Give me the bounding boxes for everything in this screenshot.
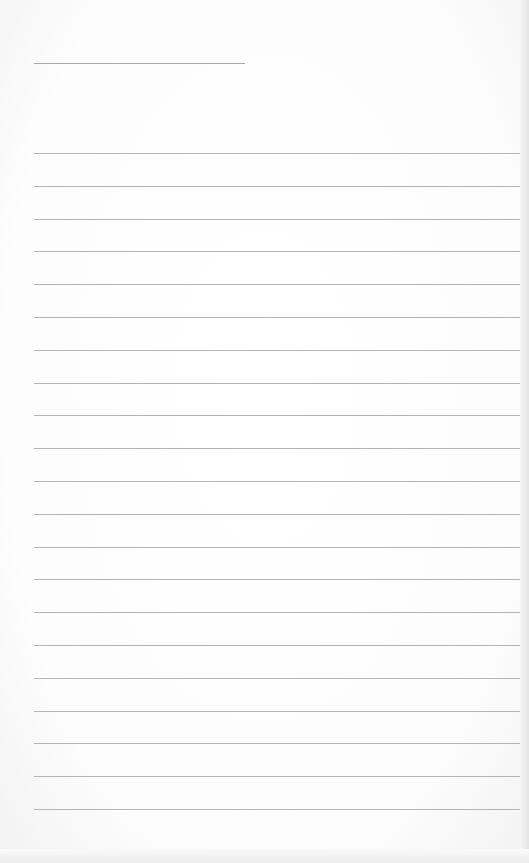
lined-paper bbox=[0, 0, 529, 863]
ruled-line bbox=[34, 251, 520, 252]
ruled-line bbox=[34, 809, 520, 810]
ruled-line bbox=[34, 448, 520, 449]
ruled-line bbox=[34, 481, 520, 482]
ruled-line bbox=[34, 415, 520, 416]
paper-edge-right bbox=[520, 0, 529, 863]
paper-edge-bottom bbox=[0, 849, 529, 863]
ruled-line bbox=[34, 284, 520, 285]
ruled-line bbox=[34, 776, 520, 777]
ruled-line bbox=[34, 514, 520, 515]
ruled-line bbox=[34, 579, 520, 580]
ruled-line bbox=[34, 711, 520, 712]
ruled-line bbox=[34, 678, 520, 679]
ruled-line bbox=[34, 743, 520, 744]
ruled-line bbox=[34, 547, 520, 548]
ruled-line bbox=[34, 153, 520, 154]
title-line bbox=[34, 63, 245, 64]
ruled-line bbox=[34, 383, 520, 384]
ruled-line bbox=[34, 645, 520, 646]
ruled-line bbox=[34, 186, 520, 187]
ruled-line bbox=[34, 317, 520, 318]
ruled-line bbox=[34, 612, 520, 613]
ruled-line bbox=[34, 350, 520, 351]
ruled-line bbox=[34, 219, 520, 220]
